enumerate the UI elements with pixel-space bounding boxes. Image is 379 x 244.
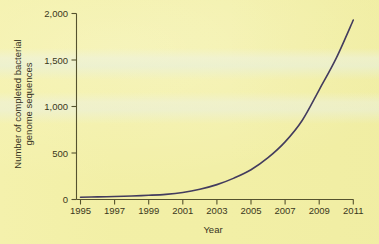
- y-axis: 0 500 1,000 1,500 2,000: [44, 8, 76, 205]
- x-tick-label-1997: 1997: [104, 205, 125, 216]
- y-axis-title: Number of completed bacterial genome seq…: [12, 39, 34, 168]
- x-tick-label-1999: 1999: [138, 205, 159, 216]
- data-line-series: [81, 20, 354, 197]
- x-tick-label-2003: 2003: [206, 205, 227, 216]
- line-chart: Number of completed bacterial genome seq…: [0, 0, 379, 244]
- chart-svg: Number of completed bacterial genome seq…: [0, 0, 379, 244]
- y-axis-title-line-1: Number of completed bacterial: [12, 39, 23, 168]
- y-tick-label-500: 500: [52, 148, 68, 159]
- y-tick-label-2000: 2,000: [44, 8, 68, 19]
- x-axis-title: Year: [203, 224, 222, 235]
- y-tick-label-1000: 1,000: [44, 101, 68, 112]
- x-tick-label-2011: 2011: [343, 205, 363, 216]
- x-tick-label-2001: 2001: [172, 205, 193, 216]
- x-tick-label-2007: 2007: [275, 205, 296, 216]
- y-axis-title-line-2: genome sequences: [23, 62, 34, 145]
- x-tick-label-1995: 1995: [70, 205, 91, 216]
- x-axis: 1995 1997 1999 2001 2003 2005 2007 2009 …: [70, 200, 364, 236]
- x-tick-label-2005: 2005: [240, 205, 261, 216]
- x-tick-label-2009: 2009: [309, 205, 330, 216]
- y-tick-label-1500: 1,500: [44, 55, 68, 66]
- y-tick-label-0: 0: [63, 194, 68, 205]
